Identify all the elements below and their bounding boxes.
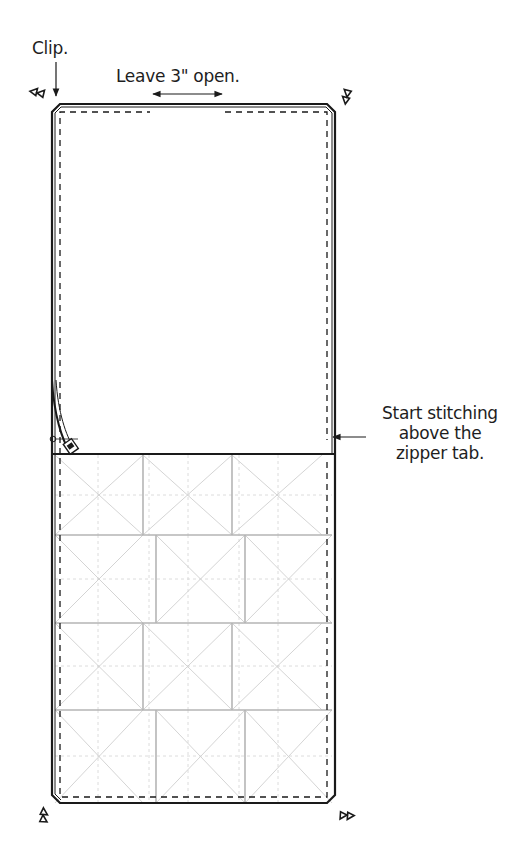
clip-mark-bottom-left-icon xyxy=(35,808,51,825)
start-stitching-line-1: Start stitching xyxy=(360,403,520,423)
clip-mark-bottom-right-icon xyxy=(337,807,354,823)
zipper xyxy=(50,380,78,454)
upper-panel xyxy=(52,104,335,454)
clip-mark-top-right-icon xyxy=(341,87,355,104)
start-stitching-line-3: zipper tab. xyxy=(360,443,520,463)
leave-open-label: Leave 3" open. xyxy=(116,66,240,86)
stitch-line-upper xyxy=(60,112,327,454)
stitch-line-lower xyxy=(60,458,327,797)
clip-label: Clip. xyxy=(32,38,68,58)
start-stitching-label: Start stitching above the zipper tab. xyxy=(360,403,520,463)
zipper-pull-icon xyxy=(63,439,78,455)
clip-mark-top-left-icon xyxy=(30,87,47,101)
lower-panel xyxy=(52,454,335,803)
start-stitching-line-2: above the xyxy=(360,423,520,443)
